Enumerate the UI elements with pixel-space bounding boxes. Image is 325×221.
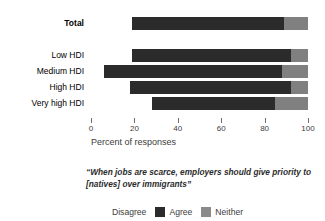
- category-label-very-high-hdi: Very high HDI: [0, 97, 84, 110]
- table-row: Total: [0, 17, 325, 30]
- x-axis-tick-label: 0: [89, 124, 93, 133]
- bar-segment-neither: [282, 65, 308, 78]
- legend-label-agree: Agree: [169, 207, 192, 217]
- legend-item-disagree[interactable]: Disagree: [112, 207, 146, 217]
- x-axis-tick-label: 100: [301, 124, 314, 133]
- category-label-low-hdi: Low HDI: [0, 49, 84, 62]
- x-axis-tick: [221, 118, 222, 123]
- bar-segment-agree: [130, 81, 291, 94]
- caption-line-1: “When jobs are scarce, employers should …: [86, 167, 301, 177]
- table-row: High HDI: [0, 81, 325, 94]
- x-axis-tick: [178, 118, 179, 123]
- x-axis-tick-label: 60: [217, 124, 226, 133]
- category-label-total: Total: [0, 17, 84, 30]
- x-axis-title: Percent of responses: [91, 137, 176, 147]
- x-axis-tick-label: 80: [260, 124, 269, 133]
- bar-segment-agree: [132, 17, 284, 30]
- x-axis-tick: [265, 118, 266, 123]
- x-axis-tick-label: 20: [130, 124, 139, 133]
- legend-swatch-neither: [201, 207, 211, 217]
- stacked-bar-medium-hdi: [91, 65, 308, 78]
- table-row: Low HDI: [0, 49, 325, 62]
- category-label-medium-hdi: Medium HDI: [0, 65, 84, 78]
- chart-figure: Total Low HDI Medium HDI High HDI: [0, 0, 325, 221]
- x-axis-tick: [308, 118, 309, 123]
- table-row: Very high HDI: [0, 97, 325, 110]
- bar-segment-neither: [275, 97, 308, 110]
- plot-area: Total Low HDI Medium HDI High HDI: [0, 0, 325, 135]
- bar-segment-neither: [291, 49, 308, 62]
- x-axis-tick: [134, 118, 135, 123]
- x-axis: 020406080100: [91, 118, 308, 138]
- legend-swatch-agree: [155, 207, 165, 217]
- stacked-bar-total: [91, 17, 308, 30]
- x-axis-tick: [91, 118, 92, 123]
- legend-label-disagree: Disagree: [112, 207, 146, 217]
- bar-segment-agree: [152, 97, 276, 110]
- stacked-bar-very-high-hdi: [91, 97, 308, 110]
- chart-legend: DisagreeAgreeNeither: [112, 205, 247, 218]
- bar-segment-neither: [291, 81, 308, 94]
- bar-segment-agree: [104, 65, 282, 78]
- legend-item-neither[interactable]: Neither: [201, 207, 243, 217]
- category-label-high-hdi: High HDI: [0, 81, 84, 94]
- stacked-bar-low-hdi: [91, 49, 308, 62]
- bar-segment-agree: [132, 49, 290, 62]
- legend-item-agree[interactable]: Agree: [155, 207, 192, 217]
- x-axis-tick-label: 40: [173, 124, 182, 133]
- table-row: Medium HDI: [0, 65, 325, 78]
- bar-segment-neither: [284, 17, 308, 30]
- legend-label-neither: Neither: [215, 207, 243, 217]
- chart-caption: “When jobs are scarce, employers should …: [86, 167, 314, 190]
- stacked-bar-high-hdi: [91, 81, 308, 94]
